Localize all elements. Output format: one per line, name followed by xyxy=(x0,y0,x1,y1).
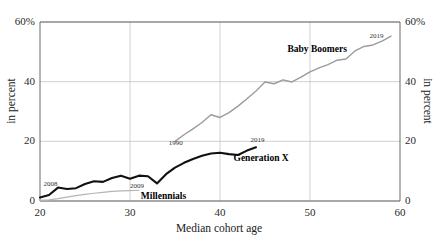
series-line-baby-boomers xyxy=(175,36,391,141)
x-axis-title: Median cohort age xyxy=(0,222,438,234)
year-annotation-1990-0: 1990 xyxy=(169,140,183,147)
y-tick-right-0: 0 xyxy=(405,195,411,206)
series-label-baby-boomers: Baby Boomers xyxy=(288,45,347,55)
year-annotation-2019-1: 2019 xyxy=(369,33,383,40)
chart-figure: Median cohort age in percent in percent … xyxy=(0,0,438,241)
x-tick-20: 20 xyxy=(20,207,60,218)
y-tick-left-40: 40 xyxy=(24,76,35,87)
series-line-generation-x xyxy=(40,147,256,197)
x-tick-60: 60 xyxy=(380,207,420,218)
y-tick-right-60: 60% xyxy=(405,16,425,27)
y-tick-left-20: 20 xyxy=(24,135,35,146)
series-line-millennials xyxy=(40,190,139,200)
x-tick-50: 50 xyxy=(290,207,330,218)
y-tick-right-20: 20 xyxy=(405,135,416,146)
y-axis-title-left: in percent xyxy=(5,61,17,141)
x-tick-40: 40 xyxy=(200,207,240,218)
year-annotation-2009-4: 2009 xyxy=(130,183,144,190)
year-annotation-2008-2: 2008 xyxy=(44,181,58,188)
series-label-millennials: Millennials xyxy=(141,192,186,202)
y-tick-left-60: 60% xyxy=(15,16,35,27)
year-annotation-2019-3: 2019 xyxy=(251,137,265,144)
y-axis-title-right: in percent xyxy=(422,61,434,141)
x-tick-30: 30 xyxy=(110,207,150,218)
y-tick-left-0: 0 xyxy=(30,195,36,206)
series-label-generation-x: Generation X xyxy=(234,154,289,164)
y-tick-right-40: 40 xyxy=(405,76,416,87)
